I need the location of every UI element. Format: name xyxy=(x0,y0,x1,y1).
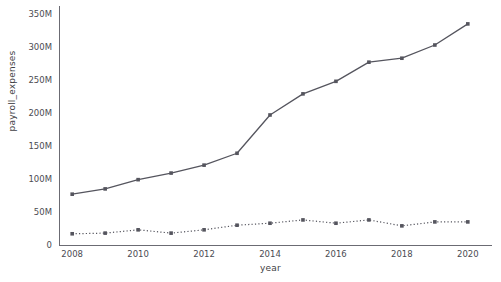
data-point-marker xyxy=(235,151,239,155)
data-point-marker xyxy=(466,22,470,26)
data-point-marker xyxy=(334,221,338,225)
data-point-marker xyxy=(169,171,173,175)
data-point-marker xyxy=(367,218,371,222)
data-point-marker xyxy=(433,220,437,224)
data-point-marker xyxy=(334,80,338,84)
data-point-marker xyxy=(301,218,305,222)
data-point-marker xyxy=(103,231,107,235)
data-point-marker xyxy=(202,163,206,167)
data-point-marker xyxy=(466,220,470,224)
data-point-marker xyxy=(433,43,437,47)
data-point-marker xyxy=(70,192,74,196)
series-lower-series xyxy=(70,218,469,235)
data-point-marker xyxy=(103,187,107,191)
data-point-marker xyxy=(70,232,74,236)
line-chart: payroll_expenses year 050M100M150M200M25… xyxy=(0,0,501,282)
data-point-marker xyxy=(169,231,173,235)
data-point-marker xyxy=(235,223,239,227)
series-line xyxy=(72,24,468,194)
data-point-marker xyxy=(136,178,140,182)
series-layer xyxy=(70,22,469,235)
data-point-marker xyxy=(367,60,371,64)
data-point-marker xyxy=(400,224,404,228)
plot-area xyxy=(0,0,501,282)
axis-lines xyxy=(59,6,492,246)
data-point-marker xyxy=(301,92,305,96)
series-upper-series xyxy=(70,22,469,196)
data-point-marker xyxy=(136,228,140,232)
data-point-marker xyxy=(268,221,272,225)
data-point-marker xyxy=(400,56,404,60)
data-point-marker xyxy=(268,113,272,117)
data-point-marker xyxy=(202,228,206,232)
